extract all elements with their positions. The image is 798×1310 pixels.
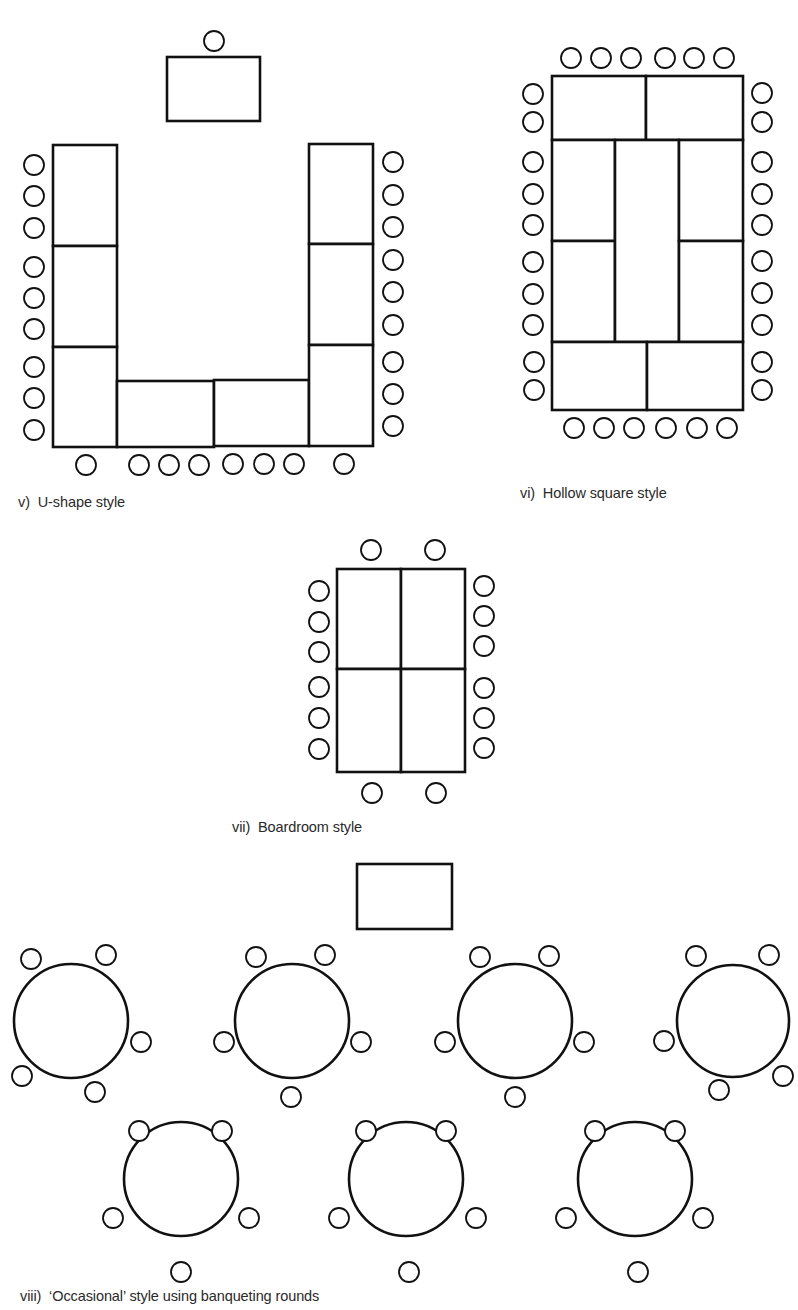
- chair: [351, 1032, 371, 1052]
- chair: [24, 155, 44, 175]
- chair: [624, 418, 644, 438]
- chair: [752, 83, 772, 103]
- top-table-1: [552, 76, 646, 140]
- chair: [655, 48, 675, 68]
- chair: [24, 420, 44, 440]
- chair: [24, 288, 44, 308]
- chair: [539, 946, 559, 966]
- chair: [212, 1121, 232, 1141]
- round-table-2: [214, 945, 371, 1107]
- chair: [129, 455, 149, 475]
- chair: [752, 251, 772, 271]
- chair: [594, 418, 614, 438]
- board-table-4: [401, 669, 465, 772]
- chair: [383, 315, 403, 335]
- layout-banqueting-rounds: [12, 864, 793, 1282]
- chair: [524, 352, 544, 372]
- chair: [309, 581, 329, 601]
- round-table-top: [458, 964, 572, 1078]
- chair: [356, 1121, 376, 1141]
- chair: [24, 388, 44, 408]
- chair: [329, 1208, 349, 1228]
- right-table-2: [679, 241, 743, 342]
- chair: [693, 1208, 713, 1228]
- chair: [383, 384, 403, 404]
- chair: [591, 48, 611, 68]
- chair: [281, 1087, 301, 1107]
- bottom-table-1: [552, 342, 647, 410]
- round-table-1: [12, 945, 151, 1102]
- chair: [315, 945, 335, 965]
- chair: [309, 642, 329, 662]
- chair: [752, 215, 772, 235]
- chair: [474, 606, 494, 626]
- chair: [399, 1262, 419, 1282]
- right-arm-table-1: [309, 144, 373, 244]
- chair: [656, 418, 676, 438]
- round-table-5: [103, 1121, 259, 1282]
- chair: [383, 152, 403, 172]
- chair: [709, 1080, 729, 1100]
- chair: [523, 112, 543, 132]
- chair: [284, 454, 304, 474]
- chair: [129, 1121, 149, 1141]
- chair: [24, 357, 44, 377]
- chair: [752, 112, 772, 132]
- chair: [714, 48, 734, 68]
- chair: [556, 1208, 576, 1228]
- chair: [523, 84, 543, 104]
- chair: [561, 48, 581, 68]
- chair: [425, 540, 445, 560]
- chair: [24, 257, 44, 277]
- chair: [773, 1066, 793, 1086]
- chair: [436, 1121, 456, 1141]
- chair: [383, 217, 403, 237]
- chair: [246, 947, 266, 967]
- round-table-3: [435, 946, 594, 1107]
- chair: [334, 454, 354, 474]
- layout-boardroom: [309, 540, 494, 803]
- round-table-7: [556, 1121, 713, 1282]
- chair: [96, 945, 116, 965]
- chair: [628, 1262, 648, 1282]
- chair: [523, 152, 543, 172]
- board-table-1: [337, 569, 401, 669]
- caption-banqueting-rounds: viii) ‘Occasional’ style using banquetin…: [20, 1288, 319, 1304]
- chair: [362, 783, 382, 803]
- chair: [159, 455, 179, 475]
- chair: [309, 739, 329, 759]
- chair: [254, 454, 274, 474]
- chair: [523, 184, 543, 204]
- board-table-2: [401, 569, 465, 669]
- chair: [684, 48, 704, 68]
- chair: [383, 352, 403, 372]
- right-arm-table-3: [309, 345, 373, 446]
- layout-hollow-square: [523, 48, 772, 438]
- chair: [687, 418, 707, 438]
- chair: [383, 416, 403, 436]
- chair: [474, 636, 494, 656]
- chair: [171, 1262, 191, 1282]
- left-arm-table-3: [53, 347, 117, 447]
- chair: [524, 380, 544, 400]
- chair: [214, 1032, 234, 1052]
- chair: [131, 1032, 151, 1052]
- chair: [309, 677, 329, 697]
- chair: [474, 738, 494, 758]
- chair: [505, 1087, 525, 1107]
- chair: [752, 184, 772, 204]
- caption-u-shape: v) U-shape style: [18, 494, 125, 510]
- chair: [474, 708, 494, 728]
- head-table: [357, 864, 452, 929]
- chair: [383, 250, 403, 270]
- chair: [103, 1208, 123, 1228]
- chair: [574, 1032, 594, 1052]
- chair: [752, 315, 772, 335]
- right-table-1: [679, 140, 743, 241]
- chair: [361, 540, 381, 560]
- chair: [12, 1066, 32, 1086]
- chair: [585, 1121, 605, 1141]
- chair: [717, 418, 737, 438]
- round-table-top: [14, 964, 128, 1078]
- bottom-table-2: [647, 342, 743, 410]
